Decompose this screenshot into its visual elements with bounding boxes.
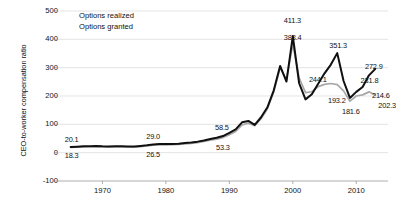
legend-label-granted: Options granted — [79, 22, 133, 31]
x-tick-label: 2010 — [336, 187, 376, 195]
legend-item-options-realized: Options realized — [62, 10, 134, 21]
x-tick-label: 1980 — [146, 187, 186, 195]
legend-label-realized: Options realized — [79, 11, 134, 20]
data-point-label: 411.3 — [284, 17, 301, 24]
data-point-label: 181.6 — [342, 108, 360, 115]
data-point-label: 214.6 — [372, 92, 390, 99]
data-point-label: 29.0 — [146, 133, 160, 140]
data-point-label: 18.3 — [65, 152, 79, 159]
x-tick-label: 1970 — [82, 187, 122, 195]
x-tick-label: 1990 — [209, 187, 249, 195]
legend-item-options-granted: Options granted — [62, 21, 134, 32]
legend-swatch-realized-icon — [62, 14, 75, 17]
data-point-label: 202.3 — [378, 102, 396, 109]
data-point-label: 26.5 — [146, 151, 160, 158]
data-point-label: 193.2 — [328, 97, 346, 104]
data-point-label: 383.4 — [284, 34, 302, 41]
chart-legend: Options realized Options granted — [62, 10, 134, 32]
data-point-label: 231.8 — [361, 77, 379, 84]
data-point-label: 244.1 — [309, 76, 327, 83]
x-tick-label: 2000 — [273, 187, 313, 195]
legend-swatch-granted-icon — [62, 25, 75, 27]
data-point-label: 20.1 — [65, 136, 79, 143]
data-point-label: 351.3 — [329, 42, 347, 49]
data-point-label: 53.3 — [216, 144, 230, 151]
data-point-label: 272.9 — [365, 63, 383, 70]
data-point-label: 58.5 — [215, 124, 229, 131]
